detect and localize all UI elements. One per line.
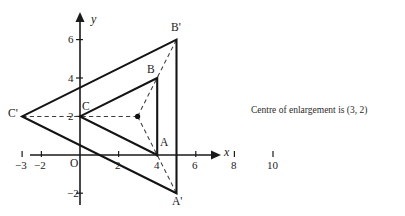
- vertex-label-C: C: [82, 101, 90, 113]
- centre-of-enlargement-note: Centre of enlargement is (3, 2): [251, 105, 367, 115]
- x-tick-label-4: 4: [154, 160, 160, 171]
- x-axis-ticks: [22, 151, 273, 157]
- y-axis-label: y: [91, 13, 96, 25]
- enlargement-figure: −3 −2 2 4 6 8 10 −2 2 4 6 O y x A B C A'…: [0, 0, 405, 216]
- y-tick-label-2: 2: [68, 111, 74, 122]
- x-tick-label-8: 8: [231, 160, 237, 171]
- vertex-label-C-prime: C': [8, 108, 18, 120]
- y-tick-label-4: 4: [68, 73, 74, 84]
- x-tick-label-6: 6: [192, 160, 198, 171]
- y-tick-label--2: −2: [67, 188, 79, 199]
- x-tick-label-2: 2: [115, 160, 121, 171]
- x-axis-arrow: [211, 151, 221, 160]
- y-tick-label-6: 6: [68, 34, 74, 45]
- vertex-label-A-prime: A': [172, 196, 182, 208]
- axes: [22, 12, 273, 205]
- x-tick-label--3: −3: [15, 160, 27, 171]
- x-axis-label: x: [224, 146, 229, 158]
- vertex-label-B: B: [147, 64, 155, 76]
- centre-of-enlargement-dot: [135, 114, 140, 119]
- y-axis-arrow: [76, 12, 85, 22]
- x-tick-label--2: −2: [34, 160, 46, 171]
- x-tick-label-10: 10: [267, 160, 278, 171]
- origin-label: O: [70, 158, 78, 170]
- vertex-label-A: A: [160, 137, 168, 149]
- vertex-label-B-prime: B': [171, 22, 181, 34]
